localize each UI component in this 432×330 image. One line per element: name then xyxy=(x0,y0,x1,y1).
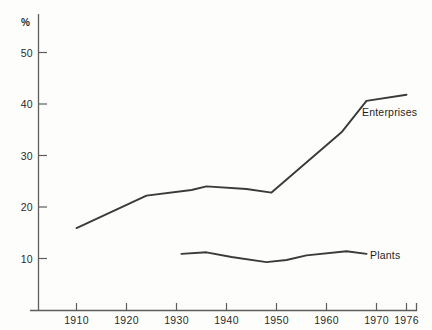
y-axis-unit-label: % xyxy=(21,17,30,28)
y-tick-label: 10 xyxy=(21,253,33,265)
x-tick-label: 1950 xyxy=(264,314,289,326)
x-tick-label: 1930 xyxy=(164,314,189,326)
x-tick-label: 1940 xyxy=(214,314,239,326)
series-label-enterprises: Enterprises xyxy=(362,106,417,118)
series-line-enterprises xyxy=(77,95,407,228)
y-tick-label: 30 xyxy=(21,150,33,162)
x-tick-label: 1970 xyxy=(364,314,389,326)
y-tick-label: 50 xyxy=(21,47,33,59)
x-tick-label: 1976 xyxy=(394,314,419,326)
y-tick-label: 40 xyxy=(21,98,33,110)
x-tick-label: 1960 xyxy=(314,314,339,326)
series-line-plants xyxy=(182,251,367,262)
line-chart: % 50 40 30 20 10 1910 1920 1930 1940 xyxy=(0,0,432,330)
series-label-plants: Plants xyxy=(370,249,400,261)
x-tick-label: 1920 xyxy=(114,314,139,326)
y-tick-group: 50 40 30 20 10 xyxy=(21,47,47,265)
chart-canvas: % 50 40 30 20 10 1910 1920 1930 1940 xyxy=(0,0,432,330)
y-tick-label: 20 xyxy=(21,201,33,213)
x-tick-label: 1910 xyxy=(64,314,89,326)
x-tick-group: 1910 1920 1930 1940 1950 1960 1970 1976 xyxy=(64,303,419,326)
